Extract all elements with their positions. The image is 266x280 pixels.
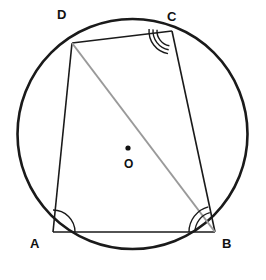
vertex-label-C: C [167, 10, 176, 23]
centre-point-dot [125, 145, 130, 150]
side-BC [172, 31, 215, 232]
vertex-label-A: A [30, 237, 39, 250]
diagonal-DB [72, 43, 215, 232]
circumcircle [18, 19, 248, 249]
centre-label-O: O [124, 158, 133, 170]
vertex-label-B: B [222, 237, 231, 250]
vertex-label-D: D [57, 8, 66, 21]
side-DA [53, 43, 72, 232]
geometry-figure: A B C D O [0, 0, 266, 280]
